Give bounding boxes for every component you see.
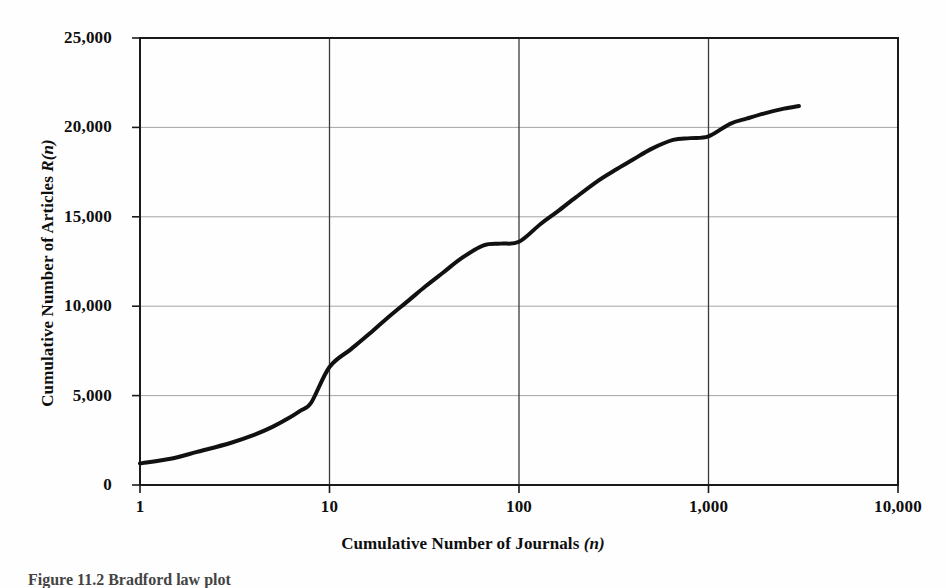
x-axis-title: Cumulative Number of Journals (n): [0, 534, 946, 554]
y-tick-label: 20,000: [28, 117, 112, 137]
figure-caption: Figure 11.2 Bradford law plot: [28, 571, 908, 588]
x-axis-title-main: Cumulative Number of Journals: [341, 534, 584, 553]
cumulative-articles-curve: [140, 106, 799, 464]
y-tick-label: 5,000: [28, 386, 112, 406]
x-tick-label: 1,000: [689, 497, 728, 517]
data-curve-group: [140, 106, 799, 464]
figure-container: 05,00010,00015,00020,00025,000 1101001,0…: [0, 0, 946, 588]
y-tick-label: 0: [28, 475, 112, 495]
axis-ticks-group: [132, 38, 898, 493]
x-tick-label: 10,000: [874, 497, 922, 517]
y-tick-label: 15,000: [28, 207, 112, 227]
y-tick-label: 25,000: [28, 28, 112, 48]
gridlines-group: [140, 38, 898, 485]
x-tick-label: 1: [136, 497, 145, 517]
x-tick-label: 10: [321, 497, 338, 517]
y-tick-label: 10,000: [28, 296, 112, 316]
x-tick-label: 100: [506, 497, 532, 517]
x-axis-title-variable: (n): [584, 534, 605, 553]
